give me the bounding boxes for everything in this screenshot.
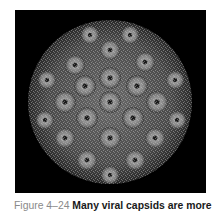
figure-caption: Figure 4–24 Many viral capsids are more	[14, 200, 219, 212]
figure-title: Many viral capsids are more	[72, 200, 211, 211]
figure-label: Figure 4–24	[14, 200, 69, 211]
capsid-figure-image	[15, 10, 206, 193]
viral-capsid-illustration	[15, 10, 206, 193]
